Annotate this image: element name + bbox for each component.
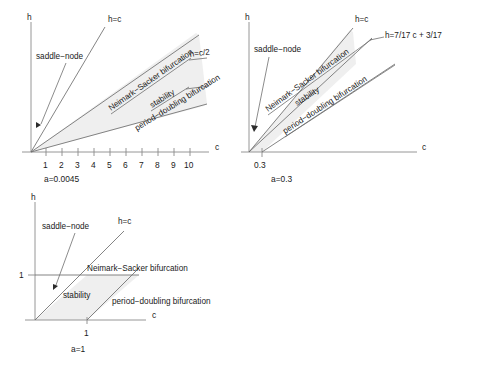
panel-a-0045: h c 1 2 3 4 5 6 7 8 9 10 saddle−node Nei… [0, 0, 239, 184]
panel-c-svg: h c 1 1 saddle−node Neimark−Sacker bifur… [0, 180, 260, 368]
saddle-node-leader-b [255, 57, 269, 127]
x-tick-label-c-1: 1 [84, 328, 89, 338]
panel-c-1: h c 1 1 saddle−node Neimark−Sacker bifur… [0, 180, 260, 368]
line-hc-label-c: h=c [118, 217, 131, 226]
saddle-node-label-a: saddle−node [36, 52, 84, 61]
saddle-node-label-c: saddle−node [42, 222, 90, 231]
y-axis-label-b: h [245, 12, 250, 22]
panel-b-03: h c 0.3 saddle−node Neimark−Sacker bifur… [232, 0, 478, 184]
saddle-node-leader-a [41, 63, 66, 124]
x-tick-label-a-9: 9 [171, 160, 176, 170]
saddle-node-arrow-c [53, 284, 58, 290]
y-axis-label-c: h [31, 192, 36, 202]
saddle-node-label-b: saddle−node [254, 45, 302, 54]
saddle-node-leader-c [56, 233, 75, 285]
neimark-sacker-label-c: Neimark−Sacker bifurcation [87, 264, 188, 273]
x-tick-label-a-3: 3 [75, 160, 80, 170]
x-tick-label-a-4: 4 [91, 160, 96, 170]
x-tick-label-a-6: 6 [123, 160, 128, 170]
x-axis-label-b: c [422, 142, 426, 152]
line-hc-label-a: h=c [108, 15, 121, 24]
y-tick-label-c-1: 1 [19, 270, 24, 280]
saddle-node-arrow-b [251, 125, 258, 132]
line-hc-label-b: h=c [355, 15, 368, 24]
caption-c: a=1 [71, 344, 86, 354]
stability-label-c: stability [63, 291, 91, 300]
bifurcation-figure: h c 1 2 3 4 5 6 7 8 9 10 saddle−node Nei… [0, 0, 478, 368]
x-tick-label-a-10: 10 [184, 160, 194, 170]
line-hc2-label-b: h=7/17 c + 3/17 [385, 31, 442, 40]
x-axis-label-a: c [215, 142, 219, 152]
x-tick-label-a-5: 5 [107, 160, 112, 170]
period-doubling-label-c: period−doubling bifurcation [112, 297, 211, 306]
x-axis-label-c: c [152, 310, 156, 320]
y-axis-label-a: h [27, 12, 32, 22]
x-tick-label-a-1: 1 [43, 160, 48, 170]
x-tick-label-a-8: 8 [155, 160, 160, 170]
underline-hc2-b [370, 37, 384, 40]
panel-a-svg: h c 1 2 3 4 5 6 7 8 9 10 saddle−node Nei… [0, 0, 239, 184]
x-tick-label-b-03: 0.3 [254, 160, 266, 170]
panel-b-svg: h c 0.3 saddle−node Neimark−Sacker bifur… [232, 0, 478, 184]
x-tick-label-a-2: 2 [59, 160, 64, 170]
saddle-node-arrow-a [36, 122, 41, 128]
x-tick-label-a-7: 7 [139, 160, 144, 170]
caption-b: a=0.3 [271, 174, 293, 184]
line-hc2-label-a: h=c/2 [189, 48, 211, 59]
